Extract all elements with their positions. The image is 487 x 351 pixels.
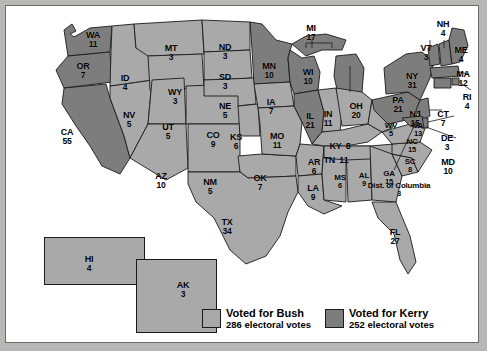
state-ev-WI: 10 — [292, 77, 324, 85]
state-ev-NJ: 15 — [402, 119, 428, 127]
us-electoral-map-svg — [6, 6, 478, 343]
state-ev-MT: 3 — [154, 53, 188, 61]
state-label-ID[interactable]: ID 4 — [110, 74, 140, 91]
legend-votes-kerry: 252 electoral votes — [349, 320, 434, 330]
state-ev-SC: 8 — [396, 166, 424, 173]
state-ev-MD: 10 — [434, 167, 462, 175]
state-ev-IN: 11 — [314, 119, 342, 127]
state-ev-NH: 4 — [428, 29, 458, 37]
state-label-OR[interactable]: OR 7 — [66, 62, 100, 79]
state-ev-OH: 20 — [340, 111, 372, 119]
state-label-MT[interactable]: MT 3 — [154, 44, 188, 61]
state-label-WY[interactable]: WY 3 — [158, 88, 192, 105]
state-ev-AK: 3 — [168, 290, 198, 298]
state-ev-RI: 4 — [454, 102, 479, 110]
state-ev-NC: 15 — [398, 146, 426, 153]
state-ev-WA: 11 — [76, 40, 110, 48]
state-ev-IA: 7 — [256, 107, 286, 115]
state-label-MO[interactable]: MO 11 — [260, 132, 294, 149]
legend-item-kerry[interactable]: Voted for Kerry 252 electoral votes — [325, 308, 434, 330]
state-label-AK[interactable]: AK 3 — [168, 281, 198, 298]
legend-votes-bush: 286 electoral votes — [226, 320, 311, 330]
legend-text-kerry: Voted for Kerry 252 electoral votes — [349, 308, 434, 330]
state-ev-MI: 17 — [296, 33, 326, 41]
state-ev-HI: 4 — [74, 264, 104, 272]
state-label-IA[interactable]: IA 7 — [256, 98, 286, 115]
state-ev-AZ: 10 — [144, 181, 178, 189]
map-canvas: WA 11 OR 7 CA 55 NV 5 ID 4 MT 3 WY 3 UT — [5, 5, 479, 343]
state-label-WA[interactable]: WA 11 — [76, 31, 110, 48]
state-label-FL[interactable]: FL 27 — [380, 228, 410, 245]
map-legend: Voted for Bush 286 electoral votes Voted… — [202, 302, 477, 336]
state-ev-MN: 10 — [252, 71, 286, 79]
state-label-DE[interactable]: DE 3 — [434, 134, 460, 151]
state-label-NH[interactable]: NH 4 — [428, 20, 458, 37]
state-ev-NE: 5 — [208, 111, 242, 119]
state-label-NC[interactable]: NC 15 — [398, 138, 426, 153]
state-ev-FL: 27 — [380, 237, 410, 245]
state-ev-NV: 5 — [112, 120, 146, 128]
state-label-IN[interactable]: IN 11 — [314, 110, 342, 127]
state-label-RI[interactable]: RI 4 — [454, 93, 479, 110]
state-label-NJ[interactable]: NJ 15 — [402, 110, 428, 127]
state-label-MI[interactable]: MI 17 — [296, 24, 326, 41]
state-label-OK[interactable]: OK 7 — [244, 174, 276, 191]
map-frame: WA 11 OR 7 CA 55 NV 5 ID 4 MT 3 WY 3 UT — [0, 0, 487, 351]
state-ev-ID: 4 — [110, 83, 140, 91]
state-label-VT[interactable]: VT 3 — [412, 44, 440, 61]
state-label-OH[interactable]: OH 20 — [340, 102, 372, 119]
state-ev-SD: 3 — [208, 82, 242, 90]
state-ev-TX: 34 — [210, 227, 244, 235]
state-ev-WV: 5 — [376, 130, 406, 137]
state-ev-MO: 11 — [260, 141, 294, 149]
state-ev-OR: 7 — [66, 71, 100, 79]
state-label-CT[interactable]: CT 7 — [430, 110, 456, 127]
state-ev-NY: 31 — [396, 81, 428, 89]
state-label-UT[interactable]: UT 5 — [152, 123, 184, 140]
state-label-TX[interactable]: TX 34 — [210, 218, 244, 235]
state-ev-VA: 13 — [404, 130, 432, 137]
state-label-DC[interactable]: Dist. of Columbia 3 — [340, 182, 458, 197]
state-label-CA[interactable]: CA 55 — [50, 128, 84, 145]
state-ev-ME: 4 — [446, 55, 476, 63]
state-label-HI[interactable]: HI 4 — [74, 255, 104, 272]
state-label-NV[interactable]: NV 5 — [112, 111, 146, 128]
legend-swatch-bush-icon — [202, 309, 221, 328]
state-ev-VT: 3 — [412, 53, 440, 61]
state-label-ND[interactable]: ND 3 — [208, 43, 242, 60]
state-label-NM[interactable]: NM 5 — [192, 178, 228, 195]
state-label-NE[interactable]: NE 5 — [208, 102, 242, 119]
state-ev-DC: 3 — [340, 190, 458, 197]
legend-item-bush[interactable]: Voted for Bush 286 electoral votes — [202, 308, 311, 330]
state-abbr-TN: TN — [324, 155, 336, 165]
state-label-MD[interactable]: MD 10 — [434, 158, 462, 175]
state-ev-NM: 5 — [192, 187, 228, 195]
state-label-KS[interactable]: KS 6 — [220, 133, 252, 150]
state-label-ME[interactable]: ME 4 — [446, 46, 476, 63]
legend-text-bush: Voted for Bush 286 electoral votes — [226, 308, 311, 330]
state-label-MN[interactable]: MN 10 — [252, 62, 286, 79]
state-ev-MA: 12 — [448, 79, 478, 87]
state-ev-CT: 7 — [430, 119, 456, 127]
state-ev-TN: 11 — [339, 155, 348, 165]
state-ev-KS: 6 — [220, 142, 252, 150]
state-ev-ND: 3 — [208, 52, 242, 60]
state-ev-DE: 3 — [434, 143, 460, 151]
state-ev-CA: 55 — [50, 137, 84, 145]
legend-swatch-kerry-icon — [325, 309, 344, 328]
state-ev-LA: 9 — [298, 193, 328, 201]
state-label-NY[interactable]: NY 31 — [396, 72, 428, 89]
state-label-SD[interactable]: SD 3 — [208, 73, 242, 90]
state-ev-UT: 5 — [152, 132, 184, 140]
state-label-WI[interactable]: WI 10 — [292, 68, 324, 85]
state-label-SC[interactable]: SC 8 — [396, 158, 424, 173]
state-label-MA[interactable]: MA 12 — [448, 70, 478, 87]
state-label-TN[interactable]: TN 11 — [312, 150, 360, 166]
state-label-AZ[interactable]: AZ 10 — [144, 172, 178, 189]
state-ev-OK: 7 — [244, 183, 276, 191]
state-label-LA[interactable]: LA 9 — [298, 184, 328, 201]
state-ev-WY: 3 — [158, 97, 192, 105]
